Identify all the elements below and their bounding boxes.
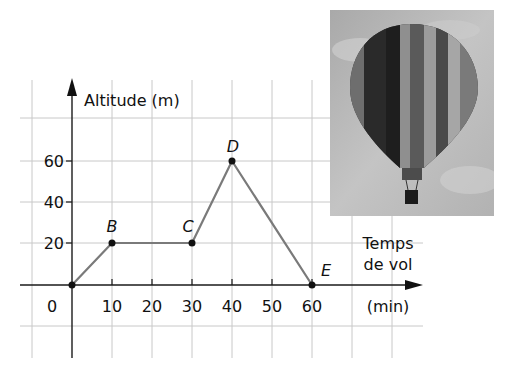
- y-axis-arrow-icon: [67, 78, 77, 96]
- hot-air-balloon-photo: [330, 10, 494, 216]
- point-b: [109, 240, 116, 247]
- x-ticks: [112, 279, 312, 285]
- y-ticks: [66, 161, 72, 243]
- y-tick-label: 60: [44, 152, 64, 171]
- x-axis-arrow-icon: [405, 280, 423, 290]
- x-tick-label: 10: [102, 297, 122, 316]
- x-tick-label: 20: [142, 297, 162, 316]
- y-axis-label: Altitude (m): [84, 91, 180, 110]
- y-tick-label: 40: [44, 193, 64, 212]
- hot-air-balloon-icon: [330, 10, 494, 216]
- point-e: [309, 282, 316, 289]
- point-origin: [69, 282, 76, 289]
- x-axis-label-line1: Temps: [362, 234, 414, 253]
- x-tick-label: 50: [262, 297, 282, 316]
- y-tick-label: 20: [44, 234, 64, 253]
- point-label-d: D: [227, 137, 239, 156]
- x-tick-label: 30: [182, 297, 202, 316]
- x-tick-label: 60: [302, 297, 322, 316]
- x-axis-unit: (min): [367, 297, 410, 316]
- point-label-e: E: [321, 261, 332, 280]
- x-axis-label-line2: de vol: [364, 255, 413, 274]
- origin-label: 0: [47, 297, 57, 316]
- x-tick-label: 40: [222, 297, 242, 316]
- point-label-c: C: [182, 217, 194, 236]
- point-label-b: B: [107, 217, 118, 236]
- point-c: [189, 240, 196, 247]
- point-d: [229, 158, 236, 165]
